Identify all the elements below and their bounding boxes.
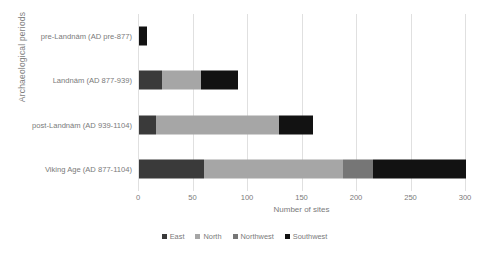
category-label: Viking Age (AD 877-1104) xyxy=(45,164,132,173)
legend-item-southwest[interactable]: Southwest xyxy=(285,232,328,241)
x-tick-label: 50 xyxy=(188,193,196,202)
x-axis-ticks: 050100150200250300 xyxy=(138,193,465,205)
x-tick-label: 200 xyxy=(350,193,363,202)
legend-item-east[interactable]: East xyxy=(162,232,185,241)
x-tick-label: 0 xyxy=(136,193,140,202)
category-label: Landnám (AD 877-939) xyxy=(53,76,132,85)
legend-item-northwest[interactable]: Northwest xyxy=(233,232,274,241)
x-tick-label: 150 xyxy=(295,193,308,202)
category-label: post-Landnám (AD 939-1104) xyxy=(32,120,132,129)
legend-swatch-icon xyxy=(233,234,238,239)
x-tick-label: 100 xyxy=(241,193,254,202)
plot-area: pre-Landnám (AD pre-877)Landnám (AD 877-… xyxy=(138,14,465,191)
legend-label: Northwest xyxy=(241,232,274,241)
legend-label: East xyxy=(170,232,185,241)
bar-segment-east[interactable] xyxy=(139,159,204,178)
bar-segment-north[interactable] xyxy=(204,159,342,178)
x-tick-label: 300 xyxy=(459,193,472,202)
chart-legend: EastNorthNorthwestSouthwest xyxy=(0,232,489,241)
y-axis-title: Archaeological periods xyxy=(17,0,27,127)
chart-row: Viking Age (AD 877-1104) xyxy=(138,14,465,191)
legend-swatch-icon xyxy=(285,234,290,239)
legend-label: North xyxy=(203,232,221,241)
legend-swatch-icon xyxy=(162,234,167,239)
bar-chart: Archaeological periods pre-Landnám (AD p… xyxy=(0,0,489,259)
legend-swatch-icon xyxy=(195,234,200,239)
category-label: pre-Landnám (AD pre-877) xyxy=(41,32,132,41)
legend-item-north[interactable]: North xyxy=(195,232,221,241)
bar-segment-southwest[interactable] xyxy=(373,159,466,178)
x-tick-label: 250 xyxy=(404,193,417,202)
bar-segment-northwest[interactable] xyxy=(343,159,374,178)
stacked-bar[interactable] xyxy=(139,159,466,178)
legend-label: Southwest xyxy=(293,232,328,241)
x-axis-title: Number of sites xyxy=(138,205,465,214)
